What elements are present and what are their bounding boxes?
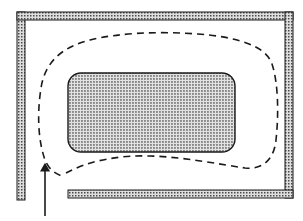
top-wall xyxy=(17,12,293,20)
inner-rounded-block xyxy=(68,73,235,152)
right-wall xyxy=(285,12,293,198)
figure-container xyxy=(0,0,303,221)
left-wall xyxy=(17,12,25,200)
diagram-canvas xyxy=(0,0,303,221)
bottom-wall xyxy=(68,190,293,198)
